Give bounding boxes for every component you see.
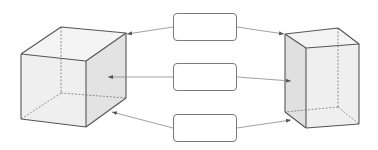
right-prism [285, 28, 359, 128]
label-box-middle[interactable] [173, 63, 237, 91]
label-box-bottom[interactable] [173, 114, 237, 142]
diagram-canvas [0, 0, 378, 150]
label-box-top[interactable] [173, 13, 237, 41]
